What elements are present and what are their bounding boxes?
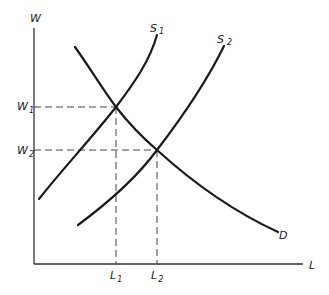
- labor-market-diagram: W L S1 S2 D W1 W2 L1: [0, 0, 329, 295]
- w2-label: W2: [17, 144, 34, 159]
- l2-label: L2: [151, 269, 163, 284]
- x-axis-label: L: [309, 259, 315, 272]
- d-label: D: [279, 229, 287, 242]
- w1-label: W1: [17, 100, 34, 115]
- s2-label: S2: [217, 33, 232, 47]
- axes: [34, 28, 303, 264]
- s1-label: S1: [150, 22, 164, 36]
- y-axis-label: W: [30, 12, 42, 25]
- supply-curve-s1: [39, 35, 157, 199]
- l1-label: L1: [110, 269, 122, 284]
- supply-curve-s2: [78, 46, 224, 225]
